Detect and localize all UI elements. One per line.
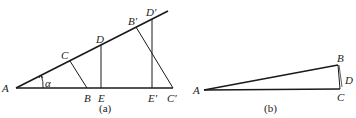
label-b-C: C: [337, 91, 345, 103]
label-D: D: [95, 33, 104, 45]
label-E-prime: E′: [147, 92, 158, 104]
baseline-b: [204, 89, 340, 90]
label-B-prime: B′: [128, 15, 138, 27]
figure-a-labels: A α C B D E B′ D′ E′ C′ (a): [1, 6, 177, 115]
segment-CB: [70, 61, 87, 88]
figure-b: [204, 65, 342, 90]
label-A: A: [1, 82, 9, 94]
label-C-prime: C′: [167, 92, 177, 104]
label-B: B: [84, 92, 91, 104]
figure-b-labels: A B D C (b): [192, 52, 353, 115]
segment-BprimeCprime: [136, 27, 173, 88]
label-b-A: A: [192, 84, 200, 96]
label-b-D: D: [344, 74, 353, 86]
caption-b: (b): [264, 102, 277, 115]
label-D-prime: D′: [145, 6, 157, 18]
figure-a: [16, 11, 173, 88]
slanted-line-b: [204, 65, 338, 90]
slanted-line-a: [16, 11, 168, 88]
geometry-figure: A α C B D E B′ D′ E′ C′ (a) A B D C (b): [0, 0, 356, 118]
label-b-B: B: [337, 52, 344, 64]
label-alpha: α: [45, 77, 51, 89]
label-C: C: [61, 49, 69, 61]
caption-a: (a): [99, 102, 112, 115]
